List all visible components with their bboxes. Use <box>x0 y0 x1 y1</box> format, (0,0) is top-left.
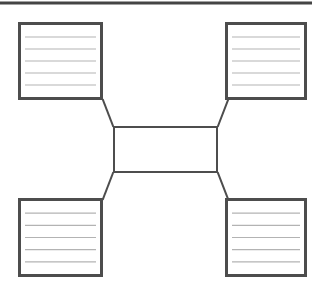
node-box-bottom-left[interactable] <box>20 200 102 276</box>
connector-center-to-top-left <box>103 100 113 126</box>
center-node-outline <box>114 127 217 172</box>
graphic-organizer-diagram <box>0 0 325 295</box>
center-node-layer <box>114 127 217 172</box>
node-box-bottom-right[interactable] <box>227 200 306 276</box>
connector-center-to-bottom-left <box>103 173 113 199</box>
connector-center-to-bottom-right <box>218 173 228 199</box>
worksheet-canvas <box>0 0 325 295</box>
center-node[interactable] <box>114 127 217 172</box>
node-box-top-left[interactable] <box>20 24 102 99</box>
node-box-top-right[interactable] <box>227 24 306 99</box>
connector-center-to-top-right <box>218 100 228 126</box>
